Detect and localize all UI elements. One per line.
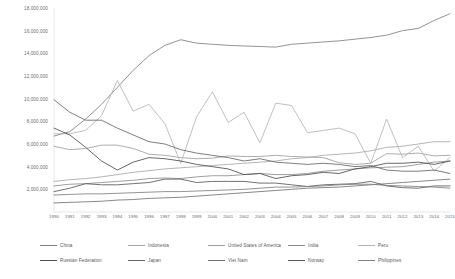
legend-swatch-icon [288,260,305,261]
x-axis-tick-label: 2010 [366,214,376,220]
legend-swatch-icon [128,260,145,261]
legend-row: ChinaIndonesiaUnited States of AmericaIn… [0,238,453,253]
x-axis-tick-label: 1995 [128,214,138,220]
x-axis-tick-label: 2013 [413,214,423,220]
legend-item-label: India [308,243,318,249]
x-axis-tick-label: 1997 [160,214,170,220]
series-line [54,179,450,203]
x-axis-tick-label: 1991 [65,214,75,220]
x-axis-tick-label: 2001 [223,214,233,220]
chart-legend: ChinaIndonesiaUnited States of AmericaIn… [0,238,453,279]
legend-swatch-icon [40,245,57,246]
legend-swatch-icon [208,260,225,261]
x-axis-tick-label: 2009 [350,214,360,220]
series-line [54,14,450,136]
series-line [54,184,450,195]
x-axis-tick-label: 2004 [271,214,281,220]
legend-item-label: Indonesia [148,243,169,249]
x-axis: 1990199119921993199419951996199719981999… [54,214,450,226]
legend-item-label: Philippines [378,258,401,264]
plot-area: 18,000,00016,000,00014,000,00012,000,000… [0,0,453,236]
x-axis-tick-label: 2002 [239,214,249,220]
legend-swatch-icon [358,260,375,261]
x-axis-tick-label: 1996 [144,214,154,220]
legend-swatch-icon [40,260,57,261]
x-axis-tick-label: 2003 [255,214,265,220]
legend-item[interactable]: Russian Federation [40,253,102,268]
legend-item[interactable]: Peru [358,238,388,253]
legend-item-label: Peru [378,243,388,249]
legend-item-label: United States of America [228,243,281,249]
legend-item[interactable]: Indonesia [128,238,169,253]
legend-item-label: Norway [308,258,324,264]
x-axis-tick-label: 2007 [318,214,328,220]
legend-item[interactable]: Viet Nam [208,253,248,268]
x-axis-tick-label: 1990 [49,214,59,220]
x-axis-tick-label: 2011 [382,214,391,220]
x-axis-tick-label: 2006 [303,214,313,220]
legend-item-label: Viet Nam [228,258,248,264]
series-group [54,14,450,203]
legend-item[interactable]: India [288,238,318,253]
legend-swatch-icon [288,245,305,246]
x-axis-tick-label: 1993 [97,214,107,220]
x-axis-tick-label: 2015 [445,214,455,220]
x-axis-tick-label: 2012 [398,214,408,220]
legend-row: Russian FederationJapanViet NamNorwayPhi… [0,253,453,268]
x-axis-tick-label: 1994 [112,214,122,220]
series-line [54,142,450,182]
legend-item[interactable]: Philippines [358,253,401,268]
x-axis-tick-label: 1992 [81,214,91,220]
legend-swatch-icon [358,245,375,246]
legend-item-label: China [60,243,73,249]
legend-item-label: Russian Federation [60,258,102,264]
legend-swatch-icon [208,245,225,246]
x-axis-tick-label: 2005 [287,214,297,220]
series-line [54,145,450,164]
x-axis-tick-label: 2000 [208,214,218,220]
legend-item[interactable]: United States of America [208,238,281,253]
legend-item[interactable]: Japan [128,253,161,268]
x-axis-tick-label: 2008 [334,214,344,220]
legend-swatch-icon [128,245,145,246]
series-lines [0,0,453,236]
legend-item[interactable]: Norway [288,253,324,268]
x-axis-tick-label: 2014 [429,214,439,220]
x-axis-tick-label: 1999 [192,214,202,220]
x-axis-tick-label: 1998 [176,214,186,220]
legend-item[interactable]: China [40,238,73,253]
legend-item-label: Japan [148,258,161,264]
